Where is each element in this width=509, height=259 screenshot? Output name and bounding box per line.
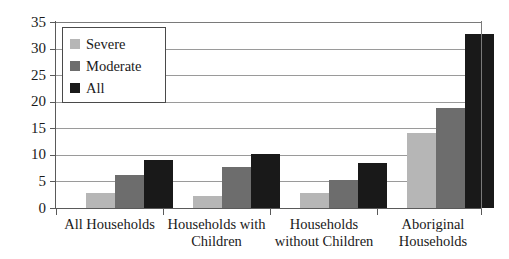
legend-item-all: All: [70, 77, 165, 99]
legend-label: All: [86, 81, 105, 96]
bar-severe: [407, 133, 436, 208]
x-category-label-aboriginal-households: Aboriginal Households: [380, 216, 486, 250]
x-tick-mark: [163, 209, 164, 215]
cat-label-line: Households: [380, 233, 486, 250]
cat-label-line: Aboriginal: [380, 216, 486, 233]
x-category-label-households-without-children: Households without Children: [266, 216, 382, 250]
y-tick-mark-25: [50, 75, 56, 76]
y-tick-label: 15: [2, 121, 46, 136]
x-tick-mark: [481, 209, 482, 215]
bar-group-aboriginal-households: [407, 22, 504, 208]
legend-swatch-icon: [70, 61, 80, 71]
bar-all: [465, 34, 494, 208]
y-tick-mark-35: [50, 22, 56, 23]
legend-label: Severe: [86, 37, 125, 52]
y-tick-label: 0: [2, 201, 46, 216]
x-category-label-all-households: All Households: [56, 216, 163, 233]
x-axis-line: [55, 208, 482, 209]
cat-label-line: Households with: [160, 216, 273, 233]
bar-group-households-with-children: [193, 22, 290, 208]
bar-moderate: [436, 108, 465, 208]
y-tick-mark-20: [50, 102, 56, 103]
bar-severe: [86, 193, 115, 208]
cat-label-line: All Households: [56, 216, 163, 233]
chart-legend: Severe Moderate All: [62, 27, 166, 103]
y-tick-label: 5: [2, 174, 46, 189]
y-tick-label: 20: [2, 94, 46, 109]
legend-swatch-icon: [70, 39, 80, 49]
y-tick-mark-15: [50, 128, 56, 129]
legend-label: Moderate: [86, 59, 142, 74]
y-tick-label: 25: [2, 68, 46, 83]
bar-all: [358, 163, 387, 208]
bar-all: [251, 154, 280, 208]
bar-severe: [300, 193, 329, 208]
bar-moderate: [329, 180, 358, 208]
bar-all: [144, 160, 173, 208]
legend-item-moderate: Moderate: [70, 55, 165, 77]
y-axis-tick-labels: 35 30 25 20 15 10 5 0: [0, 0, 50, 259]
y-tick-mark-5: [50, 181, 56, 182]
plot-right-border: [481, 21, 482, 209]
y-tick-mark-10: [50, 155, 56, 156]
x-tick-mark: [270, 209, 271, 215]
bar-moderate: [222, 167, 251, 208]
bar-severe: [193, 196, 222, 208]
x-tick-mark: [56, 209, 57, 215]
x-category-label-households-with-children: Households with Children: [160, 216, 273, 250]
cat-label-line: Children: [160, 233, 273, 250]
legend-swatch-icon: [70, 83, 80, 93]
bar-moderate: [115, 175, 144, 208]
cat-label-line: Households: [266, 216, 382, 233]
x-tick-mark: [377, 209, 378, 215]
bar-chart: 35 30 25 20 15 10 5 0 All Households Hou: [0, 0, 509, 259]
bar-group-households-without-children: [300, 22, 397, 208]
y-tick-label: 10: [2, 147, 46, 162]
y-tick-label: 30: [2, 41, 46, 56]
cat-label-line: without Children: [266, 233, 382, 250]
legend-item-severe: Severe: [70, 33, 165, 55]
y-tick-mark-30: [50, 49, 56, 50]
y-tick-label: 35: [2, 15, 46, 30]
